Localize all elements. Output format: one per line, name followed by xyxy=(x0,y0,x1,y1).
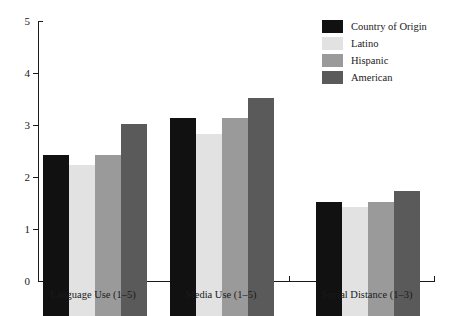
y-tick-label-4: 4 xyxy=(14,68,30,79)
bar-group-social-distance xyxy=(316,56,417,316)
y-tick-label-0: 0 xyxy=(14,276,30,287)
legend: Country of Origin Latino Hispanic Americ… xyxy=(322,18,427,86)
x-axis-label-media-use: Media Use (1–5) xyxy=(156,289,286,301)
legend-item-hispanic: Hispanic xyxy=(322,52,427,69)
bar-media-use-country-of-origin xyxy=(170,118,196,316)
legend-label-latino: Latino xyxy=(351,38,378,50)
x-axis-right-cap xyxy=(434,276,435,282)
bar-group-media-use xyxy=(170,56,271,316)
bar-chart: 5 4 3 2 1 0 Language Use (1–5) Media Use… xyxy=(0,0,449,316)
legend-swatch-hispanic xyxy=(322,54,343,67)
legend-label-country-of-origin: Country of Origin xyxy=(351,21,427,33)
legend-item-american: American xyxy=(322,69,427,86)
legend-label-american: American xyxy=(351,72,392,84)
legend-swatch-country-of-origin xyxy=(322,20,343,33)
y-axis-line xyxy=(38,21,39,282)
x-axis-group-separator-2 xyxy=(289,276,290,282)
y-tick-label-2: 2 xyxy=(14,172,30,183)
legend-swatch-latino xyxy=(322,37,343,50)
y-tick-label-3: 3 xyxy=(14,120,30,131)
x-axis-label-language-use: Language Use (1–5) xyxy=(28,289,158,301)
legend-label-hispanic: Hispanic xyxy=(351,55,388,67)
bar-media-use-hispanic xyxy=(222,118,248,316)
bar-language-use-american xyxy=(121,124,147,316)
legend-item-country-of-origin: Country of Origin xyxy=(322,18,427,35)
legend-swatch-american xyxy=(322,71,343,84)
y-tick-label-5: 5 xyxy=(14,16,30,27)
y-tick-label-1: 1 xyxy=(14,224,30,235)
bar-media-use-american xyxy=(248,98,274,316)
bar-group-language-use xyxy=(43,56,144,316)
x-axis-label-social-distance: Social Distance (1–3) xyxy=(301,289,433,301)
legend-item-latino: Latino xyxy=(322,35,427,52)
